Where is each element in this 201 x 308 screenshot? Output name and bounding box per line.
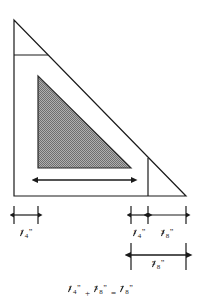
total-right-dimension-label: 5 8 ” xyxy=(145,261,171,273)
equation-term1-fraction: 1 4 xyxy=(68,286,77,296)
fraction-one-quarter-right: 1 4 xyxy=(133,230,142,240)
inch-mark: ” xyxy=(170,228,174,237)
inch-mark: ” xyxy=(161,259,165,268)
fraction-one-quarter-left: 1 4 xyxy=(20,230,29,240)
fraction-three-eighths: 3 8 xyxy=(161,230,170,240)
fraction-five-eighths: 5 8 xyxy=(152,261,161,271)
equation-result-fraction: 7 8 xyxy=(120,286,129,296)
inch-mark: ” xyxy=(103,284,107,293)
left-seam-dimension-label: 1 4 ” xyxy=(14,230,38,242)
plus-operator: + xyxy=(83,289,92,298)
inch-mark: ” xyxy=(29,228,33,237)
inch-mark: ” xyxy=(142,228,146,237)
inch-mark: ” xyxy=(129,284,133,293)
shaded-inner-triangle xyxy=(38,76,131,168)
equation-term2-fraction: 5 8 xyxy=(94,286,103,296)
figure-container: 1 4 ” 1 4 ” 3 8 ” 5 8 ” 1 4 ” + xyxy=(0,0,201,308)
right-seam-dimension-label: 1 4 ” xyxy=(126,230,152,242)
equals-operator: = xyxy=(109,289,118,298)
inch-mark: ” xyxy=(77,284,81,293)
equation-caption: 1 4 ” + 5 8 ” = 7 8 ” xyxy=(0,286,201,298)
right-extra-dimension-label: 3 8 ” xyxy=(154,230,180,242)
